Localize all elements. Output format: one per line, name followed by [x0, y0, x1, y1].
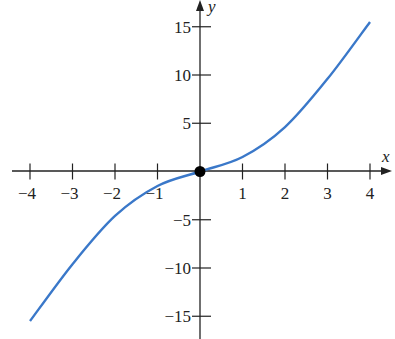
y-tick-label: −5 [173, 211, 191, 230]
y-tick-label: −15 [164, 307, 191, 326]
x-tick-label: −3 [60, 184, 78, 203]
y-tick-label: 5 [183, 114, 192, 133]
chart: −4−3−2−11234 15105−5−10−15 x y [0, 0, 395, 339]
y-axis-label: y [206, 0, 216, 16]
x-tick-label: −2 [103, 184, 121, 203]
y-tick-label: 15 [174, 18, 191, 37]
y-tick-label: −10 [164, 259, 191, 278]
x-axis-arrow-icon [381, 167, 392, 175]
origin-point [195, 166, 206, 177]
x-axis-label: x [381, 147, 390, 166]
x-tick-label: 1 [238, 184, 247, 203]
x-tick-label: 3 [323, 184, 332, 203]
y-tick-label: 10 [174, 66, 191, 85]
y-axis-arrow-icon [196, 0, 204, 11]
x-tick-label: 2 [281, 184, 290, 203]
x-tick-label: −4 [18, 184, 37, 203]
x-tick-label: 4 [366, 184, 375, 203]
